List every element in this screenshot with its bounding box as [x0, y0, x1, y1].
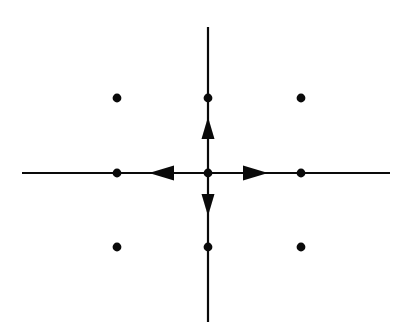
point-lower-right — [297, 243, 306, 252]
point-middle-left — [113, 169, 122, 178]
point-middle-right — [297, 169, 306, 178]
point-upper-right — [297, 94, 306, 103]
figure-canvas — [0, 0, 404, 335]
point-lower-left — [113, 243, 122, 252]
figure-background — [0, 0, 404, 335]
point-origin — [204, 169, 213, 178]
lattice-diagram-svg — [0, 0, 404, 335]
point-upper-left — [113, 94, 122, 103]
point-upper-center — [204, 94, 213, 103]
point-lower-center — [204, 243, 213, 252]
